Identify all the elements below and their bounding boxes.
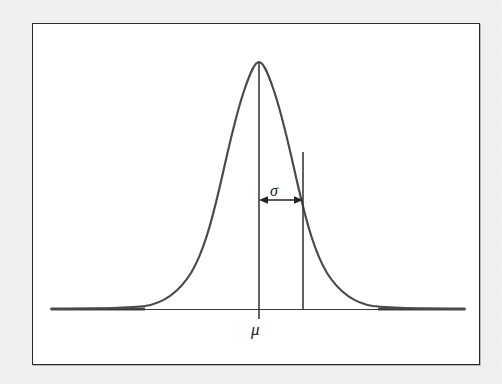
sigma-label: σ bbox=[270, 183, 278, 199]
mu-label: μ bbox=[251, 321, 260, 338]
figure-panel: σ μ bbox=[32, 23, 480, 365]
normal-distribution-chart bbox=[33, 24, 481, 366]
sigma-span-arrow bbox=[259, 196, 303, 204]
gaussian-curve bbox=[51, 62, 465, 309]
